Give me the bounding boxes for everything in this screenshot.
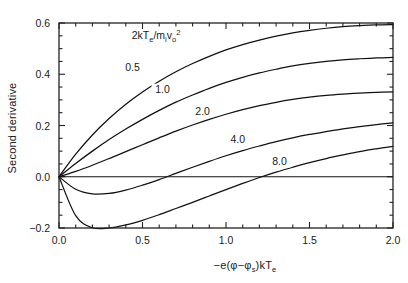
curve-label-8.0: 8.0: [272, 155, 287, 167]
chart-canvas: 0.00.51.01.52.0 −0.20.00.20.40.6 0.51.02…: [0, 0, 408, 283]
curve-label-2.0: 2.0: [195, 105, 210, 117]
y-tick-label: 0.6: [35, 17, 50, 29]
chart-figure: 0.00.51.01.52.0 −0.20.00.20.40.6 0.51.02…: [0, 0, 408, 283]
y-tick-label: 0.0: [35, 171, 50, 183]
y-axis-label: Second derivative: [6, 83, 18, 174]
y-tick-label: 0.2: [35, 120, 50, 132]
y-tick-label: 0.4: [35, 68, 50, 80]
x-tick-label: 1.5: [302, 234, 317, 246]
x-tick-label: 0.0: [52, 234, 67, 246]
curve-label-0.5: 0.5: [125, 61, 140, 73]
curve-label-4.0: 4.0: [230, 133, 245, 145]
curve-label-1.0: 1.0: [155, 83, 170, 95]
x-tick-label: 0.5: [135, 234, 150, 246]
x-tick-label: 1.0: [219, 234, 234, 246]
x-tick-label: 2.0: [386, 234, 401, 246]
y-tick-label: −0.2: [29, 222, 50, 234]
